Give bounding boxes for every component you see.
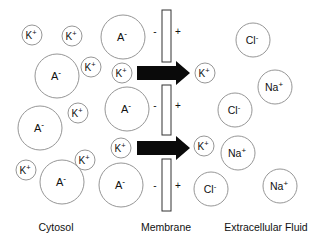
ion-cl-anion: Cl-	[218, 93, 252, 127]
ion-label: Cl-	[228, 103, 241, 116]
ion-label: K+	[65, 29, 77, 42]
ion-label: K+	[71, 106, 83, 119]
ion-label: K+	[25, 28, 37, 41]
ion-a-anion: A-	[101, 15, 145, 59]
membrane: -+-+-+	[153, 10, 181, 211]
ion-label: Cl-	[204, 182, 217, 195]
ion-label: Na+	[270, 179, 288, 192]
ion-na-cation: Na+	[263, 169, 297, 203]
ion-cl-anion: Cl-	[236, 23, 270, 57]
ion-distribution-diagram: K+K+A-A-K+K+A-K+A-K+K+K+A-A-K+K+Cl-Na+Cl…	[0, 0, 324, 245]
ion-label: A-	[117, 30, 127, 43]
positive-charge-sign: +	[175, 180, 181, 191]
region-labels: Cytosol Membrane Extracellular Fluid	[38, 221, 307, 233]
cytosol-label: Cytosol	[38, 221, 73, 233]
positive-charge-sign: +	[175, 100, 181, 111]
membrane-segment	[162, 85, 171, 135]
ion-label: K+	[115, 66, 127, 79]
ion-label: K+	[78, 153, 90, 166]
ion-label: K+	[19, 163, 31, 176]
negative-charge-sign: -	[153, 180, 156, 191]
ion-label: K+	[198, 66, 210, 79]
ion-cl-anion: Cl-	[194, 172, 228, 206]
ion-label: A-	[121, 102, 131, 115]
ion-k-cation: K+	[16, 160, 36, 180]
extracellular-fluid-label: Extracellular Fluid	[224, 221, 308, 233]
ion-k-cation: K+	[111, 138, 131, 158]
ion-label: K+	[84, 60, 96, 73]
ion-a-anion: A-	[40, 160, 84, 204]
ion-na-cation: Na+	[258, 70, 292, 104]
ion-k-cation: K+	[62, 26, 82, 46]
ion-k-cation: K+	[81, 57, 101, 77]
ion-label: A-	[34, 121, 44, 134]
ion-label: Na+	[228, 146, 246, 159]
ion-label: A-	[51, 69, 61, 82]
ion-k-cation: K+	[194, 136, 214, 156]
ion-label: K+	[114, 141, 126, 154]
right-arrow-icon	[137, 136, 190, 160]
negative-charge-sign: -	[153, 26, 156, 37]
ion-k-cation: K+	[68, 103, 88, 123]
membrane-label: Membrane	[141, 221, 191, 233]
ion-label: A-	[115, 178, 125, 191]
ion-a-anion: A-	[105, 87, 149, 131]
ions-layer: K+K+A-A-K+K+A-K+A-K+K+K+A-A-K+K+Cl-Na+Cl…	[16, 15, 297, 207]
ion-label: Cl-	[246, 33, 259, 46]
ion-label: K+	[197, 139, 209, 152]
ion-label: Na+	[265, 80, 283, 93]
ion-a-anion: A-	[99, 163, 143, 207]
negative-charge-sign: -	[153, 100, 156, 111]
membrane-segment	[162, 10, 171, 62]
ion-label: A-	[56, 175, 66, 188]
ion-a-anion: A-	[18, 106, 62, 150]
ion-a-anion: A-	[35, 54, 79, 98]
ion-na-cation: Na+	[221, 136, 255, 170]
right-arrow-icon	[137, 61, 190, 85]
ion-k-cation: K+	[195, 63, 215, 83]
membrane-segment	[162, 159, 171, 211]
positive-charge-sign: +	[175, 26, 181, 37]
ion-k-cation: K+	[22, 25, 42, 45]
ion-k-cation: K+	[112, 63, 132, 83]
